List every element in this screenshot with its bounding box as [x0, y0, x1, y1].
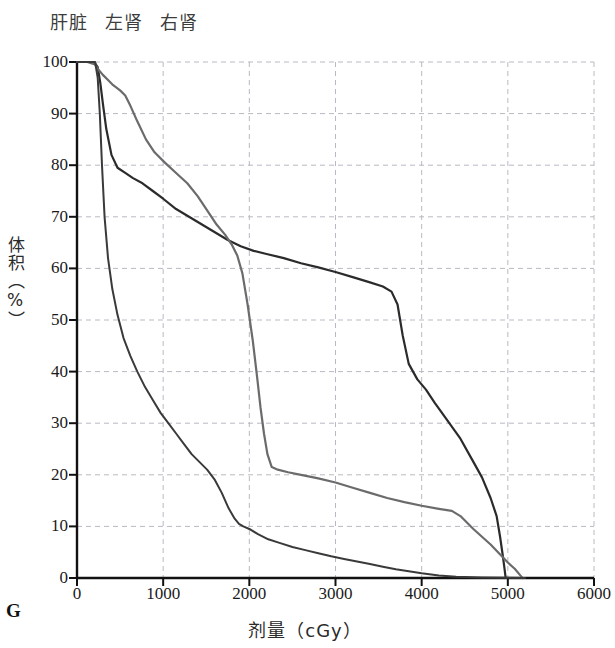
- grid-lines: [77, 62, 594, 578]
- panel-label: G: [6, 600, 21, 622]
- axis-lines: [77, 62, 594, 578]
- x-axis-title: 剂量（cGy）: [0, 616, 610, 642]
